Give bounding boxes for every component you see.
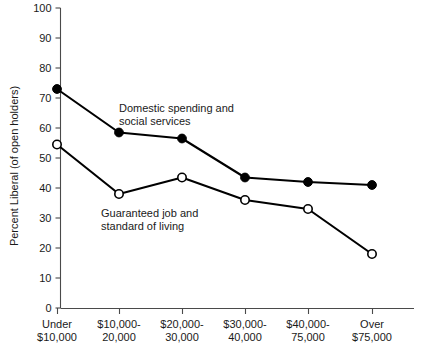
series-annotations-group: Domestic spending andsocial servicesGuar… (101, 102, 234, 232)
y-tick-label: 0 (45, 302, 51, 314)
y-tick-label: 60 (39, 122, 51, 134)
annotation-domestic-spending: social services (119, 115, 191, 127)
data-point-marker (53, 140, 61, 148)
data-point-marker (115, 128, 124, 137)
x-axis-category-label: Under (42, 318, 72, 330)
x-axis-category-label: 40,000 (228, 331, 262, 343)
data-point-marker (241, 173, 250, 182)
data-point-marker (304, 205, 312, 213)
data-point-marker (53, 85, 62, 94)
x-axis-category-label: $75,000 (352, 331, 392, 343)
x-axis-category-label: $10,000 (37, 331, 77, 343)
y-axis-ticks: 0102030405060708090100 (33, 2, 60, 314)
y-tick-label: 20 (39, 242, 51, 254)
x-axis-category-label: $20,000- (160, 318, 204, 330)
y-tick-label: 70 (39, 92, 51, 104)
y-tick-label: 100 (33, 2, 51, 14)
y-tick-label: 40 (39, 182, 51, 194)
data-point-marker (304, 178, 313, 187)
annotation-domestic-spending: Domestic spending and (119, 102, 234, 114)
y-axis-title-group: Percent Liberal (of open holders) (8, 86, 20, 246)
y-axis-title: Percent Liberal (of open holders) (8, 86, 20, 246)
chart-container: Percent Liberal (of open holders) 010203… (0, 0, 421, 348)
data-point-marker (178, 173, 186, 181)
data-point-marker (368, 250, 376, 258)
line-chart: Percent Liberal (of open holders) 010203… (0, 0, 421, 348)
annotation-guaranteed-job: standard of living (101, 220, 184, 232)
series-line-2 (57, 145, 372, 255)
data-point-marker (368, 181, 377, 190)
data-point-marker (178, 134, 187, 143)
x-axis-category-label: 20,000 (102, 331, 136, 343)
y-tick-label: 30 (39, 212, 51, 224)
annotation-guaranteed-job: Guaranteed job and (101, 207, 198, 219)
x-axis-category-label: Over (360, 318, 384, 330)
y-tick-label: 90 (39, 32, 51, 44)
x-axis-labels: Under$10,000$10,000-20,000$20,000-30,000… (37, 318, 392, 343)
data-point-marker (241, 196, 249, 204)
x-axis-category-label: 30,000 (165, 331, 199, 343)
x-axis-category-label: 75,000 (291, 331, 325, 343)
y-tick-label: 80 (39, 62, 51, 74)
x-axis-category-label: $30,000- (223, 318, 267, 330)
y-tick-label: 50 (39, 152, 51, 164)
x-axis-category-label: $10,000- (97, 318, 141, 330)
data-point-marker (115, 190, 123, 198)
y-tick-label: 10 (39, 272, 51, 284)
x-axis-category-label: $40,000- (286, 318, 330, 330)
